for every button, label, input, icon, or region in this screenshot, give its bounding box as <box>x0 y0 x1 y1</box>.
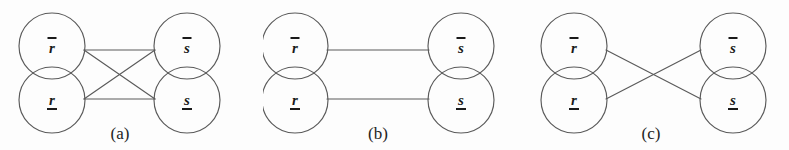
node-label-top-right: s <box>441 39 481 56</box>
node-label-bottom-right: s <box>167 93 207 108</box>
glyph-s-underline: s <box>184 93 190 108</box>
node-label-bottom-left: r <box>275 93 315 108</box>
node-label-bottom-left: r <box>32 93 72 108</box>
glyph-s-overbar: s <box>184 39 190 56</box>
glyph-r-underline: r <box>49 93 55 108</box>
glyph-r-overbar: r <box>49 39 55 56</box>
diagram-panel-a: r r s s (a) <box>0 0 263 150</box>
glyph-r-underline: r <box>571 93 577 108</box>
glyph-s-overbar: s <box>730 39 736 56</box>
node-label-top-right: s <box>713 39 753 56</box>
panel-caption-a: (a) <box>90 125 150 142</box>
node-label-top-left: r <box>275 39 315 56</box>
node-label-top-left: r <box>554 39 594 56</box>
glyph-s-underline: s <box>458 93 464 108</box>
glyph-r-underline: r <box>292 93 298 108</box>
node-label-top-left: r <box>32 39 72 56</box>
diagram-panel-c: r r s s (c) <box>526 0 789 150</box>
node-label-bottom-right: s <box>441 93 481 108</box>
glyph-r-overbar: r <box>571 39 577 56</box>
glyph-s-overbar: s <box>458 39 464 56</box>
diagram-panel-b: r r s s (b) <box>263 0 526 150</box>
panel-caption-c: (c) <box>621 125 681 142</box>
node-label-top-right: s <box>167 39 207 56</box>
glyph-s-underline: s <box>730 93 736 108</box>
node-label-bottom-left: r <box>554 93 594 108</box>
panel-caption-b: (b) <box>348 125 408 142</box>
glyph-r-overbar: r <box>292 39 298 56</box>
figure-container: r r s s (a) r r <box>0 0 789 150</box>
node-label-bottom-right: s <box>713 93 753 108</box>
